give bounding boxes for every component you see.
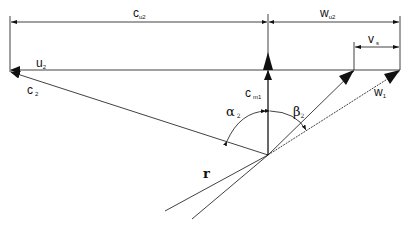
cm1-label: cm1 (245, 86, 262, 100)
w1-arrowhead (384, 70, 400, 84)
r-label: r (203, 166, 210, 181)
w1-vector (268, 71, 400, 155)
alpha2-label: α2 (226, 104, 241, 119)
beta2-label: β2 (293, 104, 305, 119)
w2-arrowhead (339, 70, 354, 85)
wu2-label: wu2 (319, 6, 336, 20)
u2-label: u2 (36, 56, 47, 70)
cu2-label: cu2 (133, 6, 146, 20)
velocity-triangle-diagram: cu2 wu2 vs u2 c2 cm1 w1 α2 β2 r (0, 0, 407, 226)
r-line-1 (165, 155, 268, 211)
w1-label: w1 (373, 85, 387, 99)
c2-label: c2 (27, 83, 39, 97)
vs-label: vs (368, 32, 379, 46)
r-line-2 (192, 155, 268, 219)
cm1-arrowhead (263, 52, 273, 70)
w2-vector (268, 71, 354, 155)
